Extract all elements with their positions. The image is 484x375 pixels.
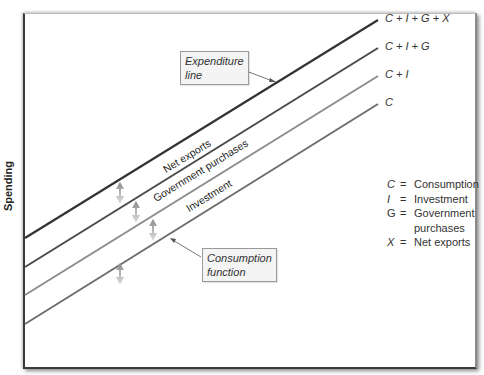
consumption-leader [171,239,201,257]
legend-symbol: X [387,235,400,250]
double-arrow-icon-government [132,201,140,223]
legend-row-x: X = Net exports [387,235,479,250]
legend-equals: = [400,192,414,207]
y-axis-label: Spending [2,156,14,216]
legend: C = Consumption I = Investment G = Gover… [387,177,479,250]
legend-row-g: G = Government [387,206,479,221]
legend-text: Net exports [414,235,470,250]
legend-text: Investment [414,192,468,207]
label-c: C [385,96,393,108]
legend-symbol: G [387,206,400,221]
line-c [25,104,378,324]
label-ci: C + I [385,68,409,80]
legend-row-c: C = Consumption [387,177,479,192]
callout-expenditure-text-1: Expenditure [185,54,244,68]
legend-symbol: C [387,177,400,192]
legend-row-i: I = Investment [387,192,479,207]
legend-equals: = [400,206,414,221]
consumption-leader-arrowhead [170,238,176,243]
legend-g-continuation: purchases [387,221,479,236]
callout-consumption-function: Consumption function [202,248,277,282]
callout-expenditure-text-2: line [185,68,244,82]
expenditure-leader-arrowhead [269,78,276,82]
label-cigx: C + I + G + X [385,12,450,24]
legend-text: Consumption [414,177,479,192]
double-arrow-icon-investment [149,219,157,241]
legend-equals: = [400,235,414,250]
callout-consumption-text-2: function [207,265,272,279]
callout-consumption-text-1: Consumption [207,251,272,265]
legend-equals: = [400,177,414,192]
callout-expenditure-line: Expenditure line [180,51,249,85]
legend-symbol: I [387,192,400,207]
double-arrow-icon-net-exports-top [116,182,124,204]
legend-text: Government [414,206,475,221]
label-cig: C + I + G [385,40,430,52]
